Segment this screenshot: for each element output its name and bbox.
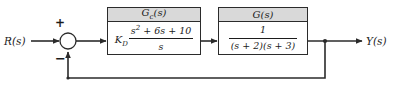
plant-block-header: G(s) [219,8,307,22]
summing-junction-circle [60,33,76,49]
controller-block-header: Gc(s) [108,8,200,22]
summing-junction-plus-sign: + [55,17,65,29]
summing-junction-minus-sign: − [55,52,66,65]
block-diagram-canvas: R(s) Y(s) + − Gc(s) KD s2 + 6s + 10 s G(… [0,0,394,86]
plant-denominator: (s + 2)(s + 3) [229,40,298,52]
controller-header-symbol: G [142,7,150,18]
controller-numerator-rest: + 6s + 10 [140,25,191,36]
controller-gain-label: KD [115,34,128,48]
plant-fraction-bar [229,38,298,39]
controller-denominator: s [157,41,166,53]
controller-numerator: s2 + 6s + 10 [129,24,193,37]
controller-header-label: Gc(s) [142,8,167,21]
output-signal-label: Y(s) [366,36,387,47]
plant-header-suffix: (s) [261,9,274,20]
controller-header-suffix: (s) [153,7,166,18]
controller-block-body: KD s2 + 6s + 10 s [108,22,200,55]
controller-fraction-bar [129,38,193,39]
plant-header-symbol: G [253,9,261,20]
plant-block-body: 1 (s + 2)(s + 3) [219,22,307,55]
plant-numerator: 1 [258,24,268,36]
controller-block: Gc(s) KD s2 + 6s + 10 s [107,7,201,55]
controller-gain-subscript: D [122,40,128,48]
controller-transfer-function: s2 + 6s + 10 s [129,24,193,53]
feedback-junction-node [66,76,69,79]
input-signal-label: R(s) [4,36,26,47]
plant-block: G(s) 1 (s + 2)(s + 3) [218,7,308,55]
plant-transfer-function: 1 (s + 2)(s + 3) [229,24,298,52]
plant-header-label: G(s) [253,10,274,20]
